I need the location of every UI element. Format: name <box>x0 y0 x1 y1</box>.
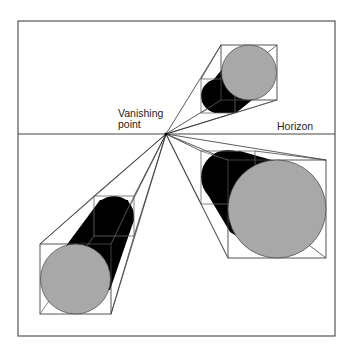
upper-right-cylinder <box>166 45 277 134</box>
vanishing-point-marker <box>165 133 168 136</box>
perspective-diagram: Vanishing point Horizon <box>0 0 353 351</box>
lower-left-cylinder <box>40 134 166 314</box>
right-cylinder <box>166 134 326 258</box>
vanishing-point-label-line2: point <box>118 118 141 130</box>
horizon-label: Horizon <box>277 120 313 132</box>
